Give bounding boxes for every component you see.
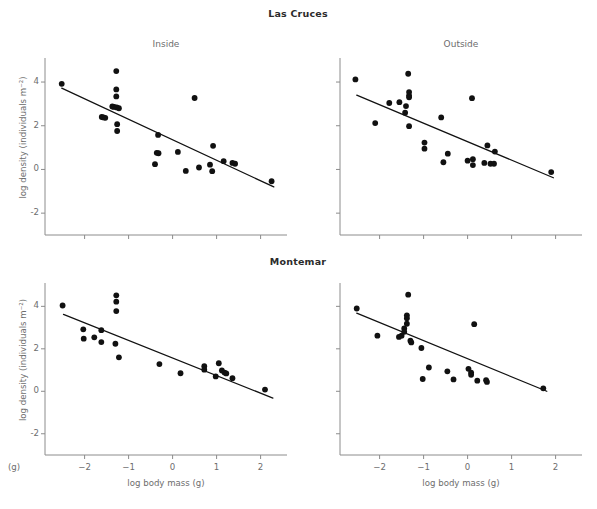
data-point — [484, 379, 490, 385]
data-point — [354, 306, 360, 312]
panel-letter: (g) — [8, 462, 20, 472]
plot-montemar-outside — [0, 0, 597, 509]
data-point — [419, 345, 425, 351]
axis-lines-montemar-outside — [340, 283, 582, 455]
data-point — [451, 377, 457, 383]
data-point — [420, 376, 426, 382]
data-point — [426, 365, 432, 371]
figure-panel-g: Las CrucesMontemar-2024Insidelog density… — [0, 0, 597, 509]
data-point — [474, 378, 480, 384]
x-tick-label-montemar-outside-2: 0 — [453, 462, 483, 472]
data-point — [468, 372, 474, 378]
x-tick-label-montemar-outside-4: 2 — [541, 462, 571, 472]
data-point — [404, 315, 410, 321]
data-point — [444, 368, 450, 374]
data-point — [540, 385, 546, 391]
x-tick-label-montemar-outside-0: −2 — [365, 462, 395, 472]
data-point — [396, 334, 402, 340]
x-axis-label-montemar-outside: log body mass (g) — [391, 478, 531, 488]
data-point — [405, 292, 411, 298]
x-tick-label-montemar-outside-3: 1 — [497, 462, 527, 472]
data-point — [375, 333, 381, 339]
data-point — [408, 340, 414, 346]
data-point — [471, 321, 477, 327]
x-tick-label-montemar-outside-1: −1 — [409, 462, 439, 472]
